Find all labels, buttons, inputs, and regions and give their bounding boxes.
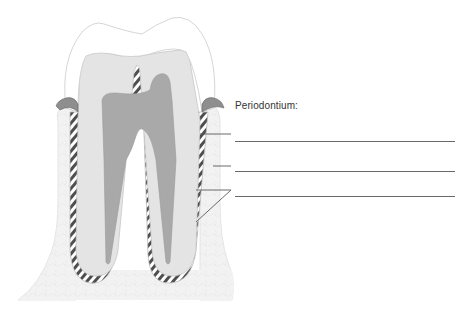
pulp [102, 74, 176, 264]
answer-line-1[interactable] [235, 141, 455, 142]
answer-line-3[interactable] [235, 196, 455, 197]
periodontium-label: Periodontium: [235, 100, 298, 111]
answer-line-2[interactable] [235, 171, 455, 172]
tooth-cross-section-diagram [0, 0, 470, 316]
alveolar-bone-base [18, 270, 234, 300]
